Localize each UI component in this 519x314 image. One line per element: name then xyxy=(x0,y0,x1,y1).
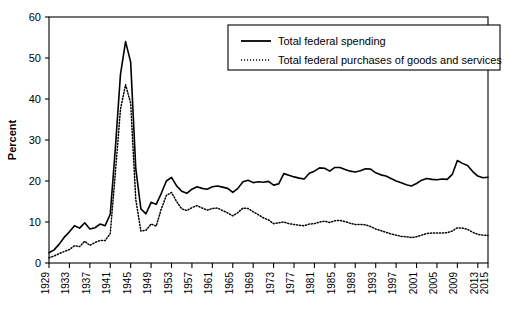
chart-legend: Total federal spendingTotal federal purc… xyxy=(228,25,502,70)
y-axis-ticks: 0102030405060 xyxy=(29,11,49,269)
legend-label-0: Total federal spending xyxy=(278,35,386,47)
y-tick-label: 10 xyxy=(29,216,41,228)
chart-container: Percent 0102030405060 192919331937194119… xyxy=(0,0,519,314)
x-tick-label: 1941 xyxy=(101,272,112,295)
x-tick-label: 1949 xyxy=(142,272,153,295)
x-tick-label: 1937 xyxy=(81,272,92,295)
x-tick-label: 1957 xyxy=(183,272,194,295)
x-tick-label: 1933 xyxy=(60,272,71,295)
x-tick-label: 1945 xyxy=(122,272,133,295)
percent-of-gdp-line-chart: Percent 0102030405060 192919331937194119… xyxy=(0,0,519,314)
series-line-1 xyxy=(49,85,488,258)
x-tick-label: 2009 xyxy=(448,272,459,295)
x-axis-ticks: 1929193319371941194519491953195719611965… xyxy=(40,263,490,294)
y-tick-label: 50 xyxy=(29,52,41,64)
y-axis-title: Percent xyxy=(6,119,18,160)
x-tick-label: 1989 xyxy=(346,272,357,295)
y-axis-label: Percent xyxy=(6,119,18,160)
x-tick-label: 1973 xyxy=(265,272,276,295)
y-tick-label: 60 xyxy=(29,11,41,23)
x-tick-label: 1953 xyxy=(163,272,174,295)
legend-label-1: Total federal purchases of goods and ser… xyxy=(278,54,502,66)
x-tick-label: 1929 xyxy=(40,272,51,295)
x-tick-label: 1969 xyxy=(244,272,255,295)
y-tick-label: 40 xyxy=(29,93,41,105)
x-tick-label: 1985 xyxy=(326,272,337,295)
x-tick-label: 2005 xyxy=(428,272,439,295)
y-tick-label: 30 xyxy=(29,134,41,146)
x-tick-label: 2001 xyxy=(408,272,419,295)
y-tick-label: 20 xyxy=(29,175,41,187)
x-tick-label: 1961 xyxy=(203,272,214,295)
data-series-group xyxy=(49,42,488,258)
x-tick-label: 1997 xyxy=(387,272,398,295)
x-tick-label: 2015 xyxy=(479,272,490,295)
x-tick-label: 1965 xyxy=(224,272,235,295)
x-tick-label: 1993 xyxy=(367,272,378,295)
x-tick-label: 1981 xyxy=(305,272,316,295)
y-tick-label: 0 xyxy=(35,257,41,269)
x-tick-label: 1977 xyxy=(285,272,296,295)
series-line-0 xyxy=(49,42,488,253)
